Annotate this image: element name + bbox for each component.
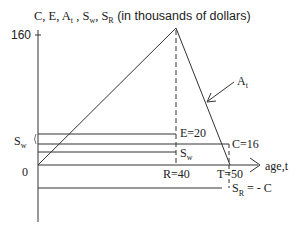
sr-label: SR = - C <box>232 181 272 198</box>
sw-brace <box>35 134 37 144</box>
at-label: At <box>237 74 249 90</box>
chart-title: C, E, At , Sw, SR (in thousands of dolla… <box>34 9 251 25</box>
lifecycle-savings-diagram: C, E, At , Sw, SR (in thousands of dolla… <box>0 0 306 227</box>
at-pointer-line <box>208 82 234 101</box>
y-origin-label: 0 <box>22 165 28 179</box>
c-label: C=16 <box>232 137 259 151</box>
sw-line-label: Sw <box>180 146 193 162</box>
e-label: E=20 <box>180 126 206 140</box>
x-axis-label: age,t <box>265 159 289 173</box>
y-sw-label: Sw <box>14 134 27 150</box>
t-label: T=50 <box>217 167 243 181</box>
r-label: R=40 <box>163 167 190 181</box>
y-tick-label-160: 160 <box>11 28 31 42</box>
